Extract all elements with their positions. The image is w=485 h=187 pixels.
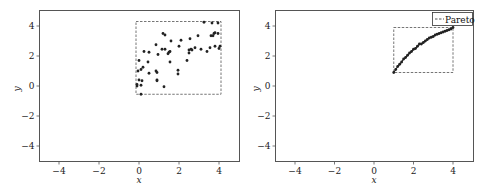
data-point [178, 45, 181, 48]
data-point [161, 48, 164, 51]
data-point [164, 34, 167, 37]
data-point [156, 71, 159, 74]
left-x-ticks: −4−2024 [52, 162, 222, 177]
left-data-points [136, 21, 222, 96]
x-tick-label: 4 [216, 166, 222, 176]
y-tick-label: 0 [29, 81, 35, 91]
data-point [188, 52, 191, 55]
data-point [140, 84, 143, 87]
y-tick-label: 2 [265, 51, 271, 61]
x-tick-label: −4 [52, 166, 66, 176]
data-point [163, 85, 166, 88]
data-point [155, 43, 158, 46]
y-tick-label: −4 [21, 141, 35, 151]
data-point [217, 32, 220, 35]
data-point [137, 70, 140, 73]
right-dashed-rectangle [394, 28, 453, 73]
y-tick-label: 0 [265, 81, 271, 91]
data-point [147, 61, 150, 64]
right-x-ticks: −4−2024 [288, 162, 456, 177]
y-tick-label: 2 [29, 51, 35, 61]
data-point [209, 46, 212, 49]
data-point [206, 50, 209, 53]
left-x-axis-label: x [136, 175, 141, 185]
x-tick-label: −2 [328, 166, 341, 176]
data-point [177, 69, 180, 72]
x-tick-label: 2 [176, 166, 182, 176]
left-y-ticks: 420−2−4 [21, 21, 39, 151]
pareto-bounding-box [394, 28, 453, 73]
data-point [170, 40, 173, 43]
data-point [136, 83, 139, 86]
figure: −4−2024 420−2−4 x y −4−2024 420−2−4 x y … [0, 0, 485, 187]
left-y-axis-label: y [12, 86, 22, 93]
data-point [140, 93, 143, 96]
x-tick-label: −2 [92, 166, 105, 176]
left-bounding-box [136, 22, 221, 95]
data-point [197, 34, 200, 37]
data-point [200, 48, 203, 51]
x-tick-label: −4 [288, 166, 302, 176]
y-tick-label: 4 [29, 21, 35, 31]
left-dashed-rectangle [136, 22, 221, 95]
y-tick-label: −2 [21, 111, 34, 121]
data-point [191, 49, 194, 52]
right-y-axis-label: y [251, 86, 261, 93]
data-point [164, 48, 167, 51]
data-point [186, 59, 189, 62]
data-point [141, 79, 144, 82]
data-point [211, 22, 214, 25]
data-point [203, 21, 206, 24]
y-tick-label: −4 [257, 141, 271, 151]
right-scatter-plot: −4−2024 420−2−4 x y Pareto [251, 11, 475, 186]
data-point [169, 50, 172, 53]
data-point [138, 79, 141, 82]
right-y-ticks: 420−2−4 [257, 21, 275, 151]
data-point [169, 61, 172, 64]
data-point [143, 50, 146, 53]
pareto-front-points [392, 26, 454, 74]
right-x-axis-label: x [371, 175, 376, 185]
data-point [214, 45, 217, 48]
data-point [148, 51, 151, 54]
y-tick-label: 4 [265, 21, 271, 31]
legend-label: Pareto [445, 15, 475, 25]
data-point [148, 72, 151, 75]
left-scatter-plot: −4−2024 420−2−4 x y [12, 11, 240, 186]
data-point [194, 46, 197, 49]
data-point [156, 79, 159, 82]
pareto-front-line [394, 28, 453, 73]
x-tick-label: 2 [411, 166, 417, 176]
data-point [177, 73, 180, 76]
data-point [180, 39, 183, 42]
data-point [138, 59, 141, 62]
left-axes-frame [40, 11, 240, 162]
legend: Pareto [433, 13, 475, 26]
y-tick-label: −2 [257, 111, 270, 121]
data-point [214, 31, 217, 34]
data-point [157, 53, 160, 56]
data-point [142, 66, 145, 69]
data-point [140, 68, 143, 71]
x-tick-label: 4 [450, 166, 456, 176]
data-point [219, 45, 222, 48]
data-point [217, 22, 220, 25]
data-point [189, 37, 192, 40]
